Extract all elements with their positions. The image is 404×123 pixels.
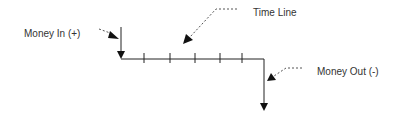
money-out-label: Money Out (-) — [317, 66, 379, 78]
money-in-arrow — [117, 27, 125, 59]
money-out-arrow — [260, 59, 268, 111]
money-in-label: Money In (+) — [24, 28, 80, 40]
cash-flow-diagram — [0, 0, 404, 123]
money-in-leader — [99, 29, 119, 39]
time-line-label: Time Line — [253, 7, 297, 19]
time-line — [121, 53, 264, 63]
money-out-leader — [267, 68, 302, 81]
time-line-leader — [183, 9, 237, 44]
